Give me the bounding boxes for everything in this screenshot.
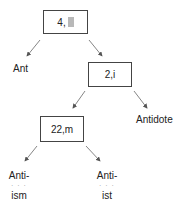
- leaf-antidote: Antidote: [136, 114, 173, 126]
- leaf-ism-ellipsis: · · ·: [7, 182, 31, 190]
- leaf-antidote-label: Antidote: [136, 114, 173, 125]
- highlight-mark: [68, 17, 74, 27]
- node-22m: 22,m: [40, 116, 84, 142]
- leaf-ist-suffix: ist: [95, 190, 119, 202]
- root-node-label: 4,: [57, 17, 65, 28]
- leaf-ist-ellipsis: · · ·: [95, 182, 119, 190]
- leaf-ant: Ant: [13, 63, 28, 75]
- leaf-anti-ist: Anti- · · · ist: [95, 170, 119, 202]
- root-node: 4,: [43, 10, 88, 34]
- node-2i-label: 2,i: [105, 69, 116, 80]
- leaf-ism-prefix: Anti-: [7, 170, 31, 182]
- leaf-ism-suffix: ism: [7, 190, 31, 202]
- leaf-anti-ism: Anti- · · · ism: [7, 170, 31, 202]
- leaf-ist-prefix: Anti-: [95, 170, 119, 182]
- node-2i: 2,i: [88, 62, 132, 87]
- leaf-ant-label: Ant: [13, 63, 28, 74]
- node-22m-label: 22,m: [51, 124, 73, 135]
